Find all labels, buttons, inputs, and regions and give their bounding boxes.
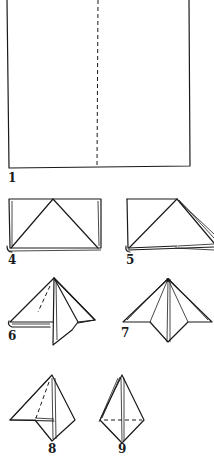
folding-diagram xyxy=(0,0,214,464)
step-label-9: 9 xyxy=(118,443,126,455)
step-8-figure xyxy=(10,375,75,441)
step-5-figure xyxy=(126,199,214,252)
step-label-5: 5 xyxy=(126,254,134,266)
step-label-1: 1 xyxy=(8,172,16,184)
step-1-figure xyxy=(7,0,190,168)
step-label-6: 6 xyxy=(8,330,16,342)
step-4-figure xyxy=(7,199,101,252)
step-label-8: 8 xyxy=(48,443,56,455)
step-6-figure xyxy=(8,278,95,345)
step-label-7: 7 xyxy=(121,327,129,339)
step-9-figure xyxy=(99,375,144,443)
step-7-figure xyxy=(123,278,212,342)
step-label-4: 4 xyxy=(8,254,16,266)
